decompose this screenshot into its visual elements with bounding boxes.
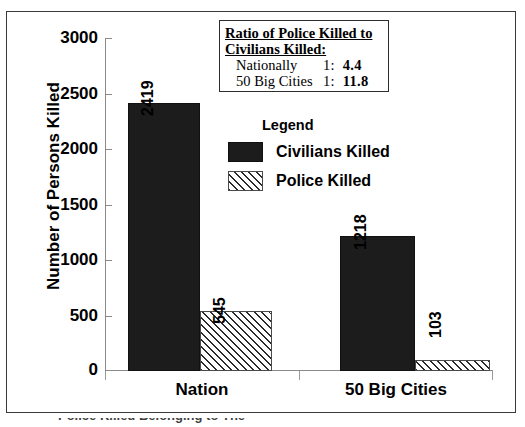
ratio-row-nationally-value: 1: 4.4 xyxy=(323,57,383,73)
bar-value-50-big-cities-civilians-killed: 1218 xyxy=(352,214,370,250)
ratio-colon-50-big-cities: 1: xyxy=(323,73,335,89)
y-tick-label-1000: 1000 xyxy=(36,250,98,270)
bar-value-50-big-cities-police-killed: 103 xyxy=(427,311,445,338)
legend-title: Legend xyxy=(262,117,314,133)
y-tick-label-2000: 2000 xyxy=(36,139,98,159)
x-axis-tick-middle xyxy=(299,371,300,380)
x-axis-label-nation: Nation xyxy=(105,380,299,400)
bar-value-nation-civilians-killed: 2419 xyxy=(139,80,157,116)
x-axis-tick-left xyxy=(105,371,106,380)
ratio-row-nationally: Nationally 1: 4.4 xyxy=(220,57,388,73)
caption-sliver-text: Police Killed Belonging to The xyxy=(58,418,245,423)
ratio-row-50-big-cities-label: 50 Big Cities xyxy=(225,73,323,89)
y-tick-label-0: 0 xyxy=(36,360,98,380)
y-tick-label-1500: 1500 xyxy=(36,195,98,215)
bar-50-big-cities-police-killed[interactable] xyxy=(415,360,490,372)
legend-swatch-police-killed-icon xyxy=(228,171,263,191)
legend-swatch-civilians-killed-icon xyxy=(228,142,263,162)
legend-item-civilians-killed[interactable]: Civilians Killed xyxy=(228,142,390,162)
ratio-row-nationally-label: Nationally xyxy=(225,57,323,73)
caption-sliver: Police Killed Belonging to The xyxy=(0,418,525,427)
figure-root: Number of Persons Killed 3000 2500 2000 … xyxy=(0,0,525,427)
y-tick-label-500: 500 xyxy=(36,306,98,326)
ratio-colon-nationally: 1: xyxy=(323,57,335,73)
ratio-heading-line-1: Ratio of Police Killed to xyxy=(220,25,388,41)
y-tick-label-2500: 2500 xyxy=(36,84,98,104)
y-axis-title: Number of Persons Killed xyxy=(44,36,64,336)
ratio-annotation-box: Ratio of Police Killed to Civilians Kill… xyxy=(219,20,389,92)
legend-label-civilians-killed: Civilians Killed xyxy=(276,143,390,161)
ratio-row-50-big-cities: 50 Big Cities 1: 11.8 xyxy=(220,73,388,89)
bar-50-big-cities-civilians-killed[interactable] xyxy=(340,236,415,371)
ratio-number-nationally: 4.4 xyxy=(343,57,362,73)
x-axis-tick-right xyxy=(492,371,493,380)
x-axis-label-50-big-cities: 50 Big Cities xyxy=(299,380,493,400)
legend-item-police-killed[interactable]: Police Killed xyxy=(228,171,371,191)
ratio-row-50-big-cities-value: 1: 11.8 xyxy=(323,73,383,89)
bar-nation-civilians-killed[interactable] xyxy=(128,103,200,372)
bar-value-nation-police-killed: 545 xyxy=(211,297,229,324)
legend-label-police-killed: Police Killed xyxy=(276,172,371,190)
ratio-number-50-big-cities: 11.8 xyxy=(343,73,369,89)
y-tick-label-3000: 3000 xyxy=(36,28,98,48)
ratio-heading-line-2: Civilians Killed: xyxy=(220,41,388,57)
